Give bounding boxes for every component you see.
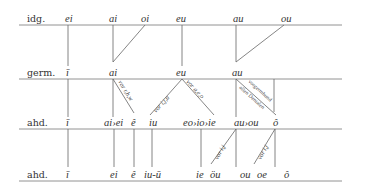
ahd2-ie: ie bbox=[196, 169, 204, 180]
ahd2-ei: ei bbox=[110, 169, 118, 180]
ahd2-ou-umlaut: öu bbox=[210, 169, 221, 180]
row-label-ahd2: ahd. bbox=[27, 169, 48, 180]
idg-ai: ai bbox=[109, 13, 117, 24]
idg-eu: eu bbox=[176, 13, 186, 24]
germ-eu: eu bbox=[176, 67, 186, 78]
idg-ei: ei bbox=[65, 13, 73, 24]
cond-vor-ij-1: vor i,j bbox=[213, 143, 227, 160]
ahd2-oe: oe bbox=[257, 169, 267, 180]
ahd1-au-ou: au›ou bbox=[234, 117, 259, 128]
cond-vor-iju: vor i,j,u bbox=[152, 93, 171, 113]
sound-shift-diagram: idg. germ. ahd. ahd. ei ai oi eu au ou ī… bbox=[0, 0, 366, 192]
ahd2-e: ê bbox=[131, 169, 136, 180]
cond-vor-aeo: vor a,e,o bbox=[185, 78, 206, 100]
row-label-germ: germ. bbox=[27, 67, 55, 78]
cond-vor-ij-2: vor i,j bbox=[256, 143, 270, 160]
germ-au: au bbox=[232, 67, 243, 78]
ahd1-ai-ei: ai›ei bbox=[104, 117, 123, 128]
idg-au: au bbox=[233, 13, 244, 24]
row-label-ahd1: ahd. bbox=[27, 117, 48, 128]
ahd1-eo-io-ie: eo›io›ie bbox=[183, 117, 216, 128]
idg-oi: oi bbox=[141, 13, 149, 24]
ahd2-o: ô bbox=[284, 169, 289, 180]
row-label-idg: idg. bbox=[27, 13, 45, 24]
ahd1-e: ê bbox=[131, 117, 136, 128]
ahd1-i: ī bbox=[66, 117, 70, 128]
ahd1-iu: iu bbox=[149, 117, 157, 128]
idg-ou: ou bbox=[281, 13, 292, 24]
ahd2-i: ī bbox=[66, 169, 70, 180]
germ-ai: ai bbox=[109, 67, 117, 78]
ahd1-o: ô bbox=[273, 117, 278, 128]
germ-i: ī bbox=[66, 67, 70, 78]
ahd2-iu-u: iu-ū bbox=[144, 169, 161, 180]
ahd2-ou: ou bbox=[240, 169, 251, 180]
